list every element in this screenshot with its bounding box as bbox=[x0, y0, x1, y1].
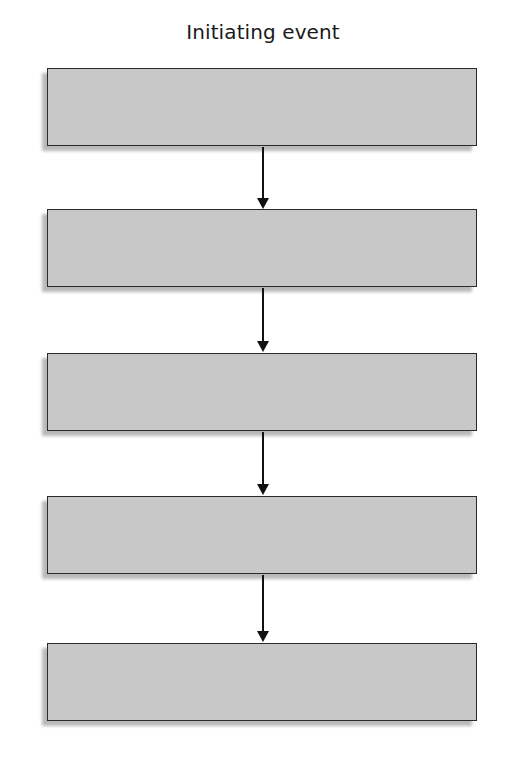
diagram-title: Initiating event bbox=[0, 20, 516, 44]
flow-box-3 bbox=[47, 353, 477, 431]
arrow-1-to-2 bbox=[262, 147, 264, 199]
flow-box-1 bbox=[47, 68, 477, 146]
arrow-3-to-4 bbox=[262, 432, 264, 485]
arrow-4-to-5 bbox=[262, 575, 264, 632]
flow-box-5 bbox=[47, 643, 477, 721]
flow-box-4 bbox=[47, 496, 477, 574]
arrow-2-to-3 bbox=[262, 288, 264, 342]
flow-box-2 bbox=[47, 209, 477, 287]
